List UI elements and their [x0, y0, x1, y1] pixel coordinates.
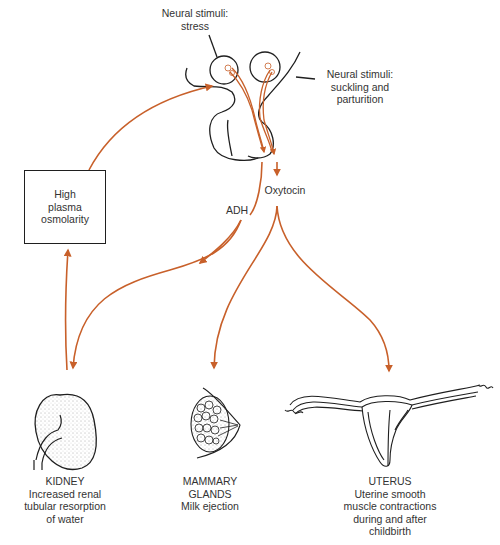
label-mammary: MAMMARY GLANDS Milk ejection [165, 475, 255, 513]
high-plasma-osmolarity-box: High plasma osmolarity [24, 170, 106, 244]
arrow-osmolarity-to-hypothalamus [89, 86, 212, 170]
neural-tracts [225, 63, 275, 154]
label-oxytocin: Oxytocin [260, 184, 310, 197]
label-stimuli-stress: Neural stimuli: stress [140, 7, 250, 32]
arrow-oxytocin-to-mammary [214, 206, 277, 368]
arrow-kidney-to-osmolarity [65, 250, 68, 370]
arrow-oxytocin-to-uterus [277, 206, 389, 371]
label-uterus: UTERUS Uterine smooth muscle contraction… [330, 475, 450, 538]
uterus-illustration [285, 385, 493, 466]
diagram-canvas [0, 0, 500, 545]
label-kidney: KIDNEY Increased renal tubular resorptio… [0, 475, 130, 525]
mammary-gland-illustration [191, 388, 240, 458]
kidney-illustration [34, 394, 96, 470]
pituitary-illustration [186, 35, 315, 160]
label-adh: ADH [222, 204, 252, 217]
label-stimuli-suckling: Neural stimuli: suckling and parturition [310, 68, 410, 106]
